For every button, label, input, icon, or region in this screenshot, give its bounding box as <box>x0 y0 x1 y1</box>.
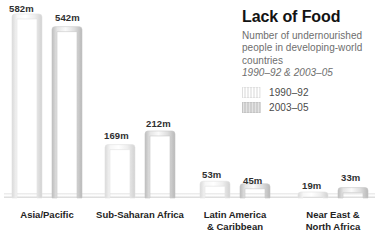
value-label: 169m <box>104 130 129 141</box>
bar-169m <box>105 145 135 198</box>
bar-outline <box>12 14 42 198</box>
category-label-line: Latin America <box>204 209 266 221</box>
page-title: Lack of Food <box>242 8 376 26</box>
bar-outline <box>298 192 328 198</box>
legend-swatch-2003-05 <box>242 102 261 113</box>
value-label: 542m <box>55 12 80 23</box>
subtitle-text: Number of undernourished people in devel… <box>242 30 376 67</box>
infographic-root: 582m542m169m212m53m45m19m33m Asia/Pacifi… <box>0 0 379 239</box>
bar-outline <box>145 131 175 198</box>
category-label-line: Sub-Saharan Africa <box>96 209 184 221</box>
info-panel: Lack of Food Number of undernourished pe… <box>242 8 376 80</box>
category-label-line: Near East & <box>306 209 361 221</box>
bar-outline <box>105 145 135 198</box>
category-label-line: & Caribbean <box>204 221 266 233</box>
category-label: Asia/Pacific <box>20 209 73 221</box>
value-label: 212m <box>146 118 171 129</box>
category-label: Latin America& Caribbean <box>204 209 266 232</box>
category-label-line: North Africa <box>306 221 361 233</box>
bar-19m <box>298 192 328 198</box>
value-label: 19m <box>302 180 321 191</box>
legend-item: 2003–05 <box>242 101 309 113</box>
category-label: Sub-Saharan Africa <box>96 209 184 221</box>
bar-212m <box>145 131 175 198</box>
category-label-line: Asia/Pacific <box>20 209 73 221</box>
bar-outline <box>52 27 82 198</box>
daterange-text: 1990–92 & 2003–05 <box>242 67 376 79</box>
legend: 1990–92 2003–05 <box>242 86 309 116</box>
legend-swatch-1990-92 <box>242 87 261 98</box>
legend-item: 1990–92 <box>242 86 309 98</box>
category-label: Near East &North Africa <box>306 209 361 232</box>
bar-542m <box>52 27 82 198</box>
bar-582m <box>12 14 42 198</box>
value-label: 582m <box>9 3 34 14</box>
legend-label-1990-92: 1990–92 <box>269 87 309 98</box>
value-label: 53m <box>202 169 221 180</box>
legend-label-2003-05: 2003–05 <box>269 102 309 113</box>
value-label: 45m <box>243 175 262 186</box>
value-label: 33m <box>341 172 360 183</box>
